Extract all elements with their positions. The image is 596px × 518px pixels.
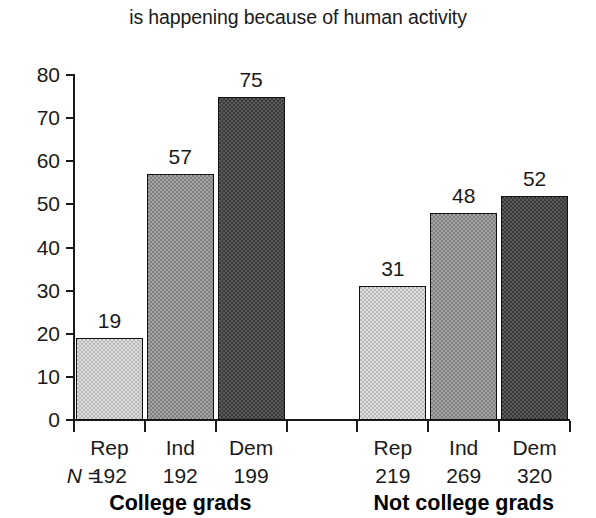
x-tick [144,421,146,432]
x-tick [356,421,358,432]
bar [147,174,214,420]
y-tick-label: 60 [4,149,60,173]
category-label: Ind [147,436,214,460]
y-tick-label: 70 [4,106,60,130]
category-label: Dem [501,436,568,460]
y-tick-label: 30 [4,279,60,303]
category-label: Ind [430,436,497,460]
x-tick [215,421,217,432]
y-tick [66,290,74,292]
category-label: Dem [218,436,285,460]
group-label: College grads [74,491,287,516]
n-value-label: 219 [359,464,426,488]
y-tick-label: 50 [4,192,60,216]
y-tick [66,203,74,205]
plot-area [74,75,570,420]
bar-value-label: 48 [430,184,497,208]
bar-value-label: 31 [359,257,426,281]
x-tick [286,421,288,432]
bar-chart: is happening because of human activity 0… [0,0,596,518]
group-label: Not college grads [357,491,570,516]
n-value-label: 320 [501,464,568,488]
n-value-label: 269 [430,464,497,488]
x-tick [73,421,75,432]
y-tick-label: 20 [4,322,60,346]
x-tick [498,421,500,432]
bar-value-label: 57 [147,145,214,169]
n-value-label: 199 [218,464,285,488]
chart-title: is happening because of human activity [0,6,596,29]
y-tick [66,376,74,378]
bar-value-label: 75 [218,68,285,92]
y-tick-label: 80 [4,63,60,87]
y-tick-label: 10 [4,365,60,389]
bar [501,196,568,420]
bar-value-label: 19 [76,309,143,333]
y-tick [66,247,74,249]
y-tick-label: 40 [4,236,60,260]
bar [430,213,497,420]
category-label: Rep [76,436,143,460]
n-value-label: 192 [147,464,214,488]
y-tick [66,333,74,335]
category-label: Rep [359,436,426,460]
x-tick [569,421,571,432]
y-tick [66,160,74,162]
bar [359,286,426,420]
bar-value-label: 52 [501,167,568,191]
bar [218,97,285,420]
y-tick [66,74,74,76]
bar [76,338,143,420]
n-value-label: 192 [76,464,143,488]
y-tick [66,117,74,119]
y-tick-label: 0 [4,408,60,432]
x-tick [427,421,429,432]
